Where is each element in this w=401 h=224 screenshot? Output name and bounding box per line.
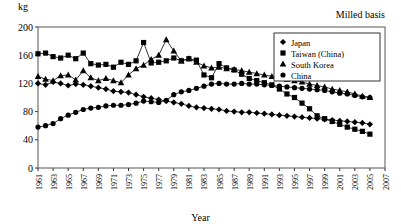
data-point (193, 104, 199, 110)
data-point (88, 61, 93, 66)
data-point (111, 103, 116, 108)
data-point (330, 89, 335, 94)
data-point (360, 94, 365, 99)
data-point (306, 115, 312, 121)
data-point (232, 82, 237, 87)
data-point (133, 65, 140, 71)
data-point (299, 101, 304, 106)
data-point (201, 62, 208, 68)
x-tick-label: 1965 (65, 174, 74, 190)
data-point (81, 107, 86, 112)
data-point (247, 76, 252, 81)
data-point (58, 55, 63, 60)
data-point (276, 112, 282, 118)
data-point (330, 119, 335, 124)
data-point (262, 82, 267, 87)
data-point (186, 88, 191, 93)
x-tick-label: 1983 (200, 174, 209, 190)
data-point (239, 109, 245, 115)
x-tick-label: 1971 (110, 174, 119, 190)
y-tick-label: 0 (28, 163, 33, 174)
data-point (66, 113, 71, 118)
data-point (345, 91, 350, 96)
x-tick-label: 1991 (261, 174, 270, 190)
data-point (344, 118, 350, 124)
legend-item-label: South Korea (291, 60, 334, 70)
legend-item-label: Japan (291, 38, 311, 48)
data-point (254, 110, 260, 116)
data-point (155, 52, 162, 58)
data-point (284, 84, 289, 89)
x-tick-label: 1973 (125, 174, 134, 190)
legend-item-label: China (291, 71, 312, 81)
data-point (201, 105, 207, 111)
data-point (291, 113, 297, 119)
data-point (239, 81, 244, 86)
data-point (103, 62, 108, 67)
data-point (103, 103, 108, 108)
data-point (80, 82, 86, 88)
data-point (133, 101, 138, 106)
data-point (247, 82, 252, 87)
data-point (171, 92, 176, 97)
data-point (277, 84, 282, 89)
data-point (194, 86, 199, 91)
y-tick-label: 80 (23, 106, 33, 117)
data-point (133, 58, 138, 63)
x-tick-label: 1997 (306, 174, 315, 190)
data-point (307, 106, 312, 111)
data-point (164, 98, 169, 103)
data-point (269, 111, 275, 117)
data-point (360, 129, 365, 134)
x-tick-label: 1975 (140, 174, 149, 190)
data-point (42, 76, 49, 82)
data-point (156, 60, 161, 65)
x-tick-label: 1977 (155, 174, 164, 190)
data-point (209, 75, 214, 80)
data-point (352, 93, 357, 98)
data-point (367, 121, 373, 127)
data-point (216, 81, 221, 86)
data-point (58, 116, 63, 121)
data-point (352, 119, 358, 125)
legend-item-label: Taiwan (China) (291, 49, 344, 59)
y-tick-label: 120 (18, 78, 33, 89)
data-point (125, 72, 132, 78)
data-point (171, 55, 176, 60)
circle-marker (280, 72, 285, 77)
x-tick-label: 1987 (231, 174, 240, 190)
data-point (299, 114, 305, 120)
data-point (337, 122, 342, 127)
data-point (73, 110, 78, 115)
data-point (110, 88, 116, 94)
data-point (367, 132, 372, 137)
y-axis-ticks: 04080120160200 (18, 22, 38, 174)
data-point (118, 60, 123, 65)
data-point (171, 99, 177, 105)
data-point (224, 82, 229, 87)
data-point (292, 85, 297, 90)
data-point (315, 87, 320, 92)
data-point (42, 82, 48, 88)
data-point (125, 89, 131, 95)
data-point (201, 84, 206, 89)
data-point (179, 89, 184, 94)
data-point (88, 83, 94, 89)
data-point (178, 101, 184, 107)
x-tick-label: 2001 (336, 174, 345, 190)
data-point (35, 80, 41, 86)
data-point (111, 65, 116, 70)
y-tick-label: 200 (18, 22, 33, 33)
data-point (322, 88, 327, 93)
data-point (337, 91, 342, 96)
data-point (35, 73, 42, 79)
x-tick-label: 1961 (35, 174, 44, 190)
data-point (65, 72, 72, 78)
y-tick-label: 160 (18, 50, 33, 61)
data-point (118, 89, 124, 95)
x-tick-label: 2003 (351, 174, 360, 190)
data-point (95, 85, 101, 91)
x-axis-ticks: 1961196319651967196919711973197519771979… (35, 168, 391, 190)
data-point (80, 67, 87, 73)
data-point (156, 100, 161, 105)
